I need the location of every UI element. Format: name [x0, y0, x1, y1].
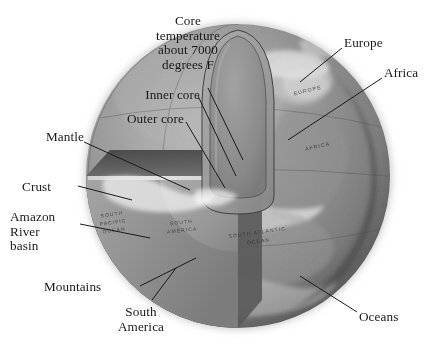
callout-south-america: South America — [104, 305, 178, 334]
callout-amazon-river-basin: Amazon River basin — [10, 210, 80, 254]
callout-mantle: Mantle — [18, 130, 84, 145]
callout-oceans: Oceans — [359, 310, 425, 325]
callout-outer-core: Outer core — [72, 112, 184, 127]
callout-africa: Africa — [384, 66, 436, 81]
callout-crust: Crust — [22, 180, 78, 195]
callout-mountains: Mountains — [44, 280, 140, 295]
callout-europe: Europe — [344, 36, 414, 51]
callout-inner-core: Inner core — [92, 88, 200, 103]
callout-core-temperature: Core temperature about 7000 degrees F — [136, 14, 240, 72]
